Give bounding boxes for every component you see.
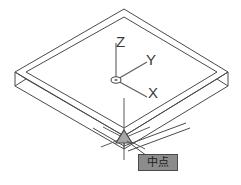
plate-left-hidden-edge-b: [15, 79, 26, 86]
osnap-tooltip-label: 中点: [147, 157, 169, 168]
ucs-origin-inner-dot: [114, 79, 117, 81]
cad-viewport[interactable]: Z Y X 中点: [0, 0, 241, 185]
ucs-y-axis-label: Y: [146, 52, 156, 67]
ucs-x-axis-label: X: [148, 85, 158, 100]
plate-right-hidden-edge-b: [217, 79, 228, 86]
osnap-tooltip: 中点: [138, 154, 178, 171]
plate-top-face[interactable]: [15, 9, 228, 136]
plate-bottom-right-inner-line-2: [128, 128, 190, 151]
cad-drawing-canvas[interactable]: [0, 0, 241, 185]
ucs-z-axis-label: Z: [116, 34, 125, 49]
